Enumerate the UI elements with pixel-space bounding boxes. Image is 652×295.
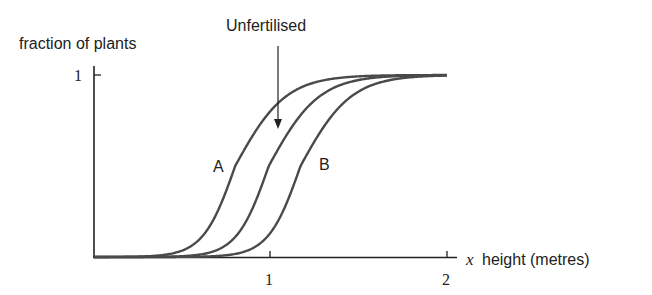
- x-axis-label: height (metres): [482, 251, 590, 268]
- unfertilised-annotation: Unfertilised: [226, 17, 306, 34]
- curve-a-label: A: [213, 158, 224, 175]
- curve-a: [94, 75, 447, 257]
- x-tick-label-2: 2: [442, 271, 450, 288]
- x-axis-variable: x: [465, 250, 474, 269]
- x-tick-label-1: 1: [265, 271, 273, 288]
- curve-b-label: B: [319, 156, 330, 173]
- curve-b: [94, 76, 447, 257]
- curve-unfertilised: [94, 75, 447, 257]
- y-tick-label-1: 1: [74, 67, 82, 84]
- annotation-arrow-head-icon: [274, 119, 282, 129]
- chart: fraction of plants 1 1 2 x height (metre…: [0, 0, 652, 295]
- y-axis-label: fraction of plants: [19, 35, 136, 52]
